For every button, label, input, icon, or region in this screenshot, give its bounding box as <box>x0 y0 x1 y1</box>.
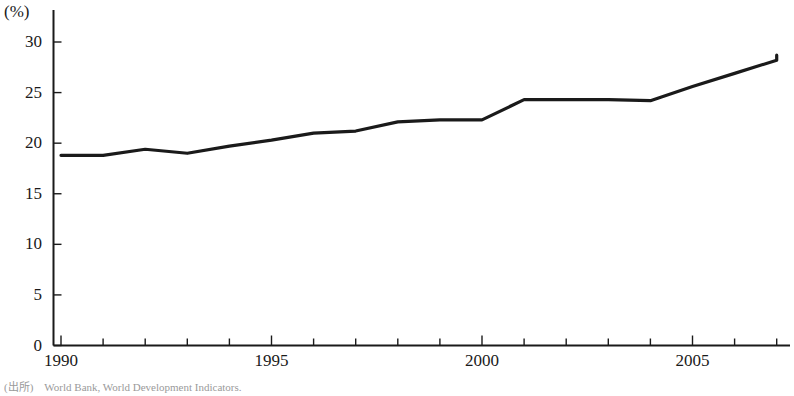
y-tick-label: 0 <box>0 337 42 354</box>
y-tick-label: 10 <box>0 235 42 252</box>
y-tick-label: 25 <box>0 84 42 101</box>
x-tick-label: 2000 <box>452 352 512 369</box>
x-tick-label: 1995 <box>242 352 302 369</box>
x-axis-ticks <box>61 336 777 346</box>
y-axis-unit-label: (%) <box>4 2 29 22</box>
chart-axes <box>54 10 791 346</box>
data-series-line <box>61 55 777 155</box>
source-note: (出所) World Bank, World Development Indic… <box>4 381 242 396</box>
y-axis-ticks <box>54 42 62 346</box>
y-tick-label: 30 <box>0 33 42 50</box>
x-tick-label: 1990 <box>31 352 91 369</box>
y-tick-label: 20 <box>0 134 42 151</box>
chart-container: (%) 302520151050 1990199520002005 (出所) W… <box>0 0 794 396</box>
y-tick-label: 5 <box>0 286 42 303</box>
y-tick-label: 15 <box>0 185 42 202</box>
line-chart-canvas <box>0 0 794 396</box>
x-tick-label: 2005 <box>663 352 723 369</box>
